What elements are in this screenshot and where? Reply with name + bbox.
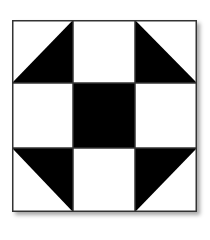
quilt-block-graphic xyxy=(12,20,197,212)
quilt-cell-r1-c0 xyxy=(12,83,73,148)
quilt-cell-r1-c1 xyxy=(73,83,135,148)
quilt-cell-r2-c2 xyxy=(135,148,197,212)
quilt-cell-r0-c1 xyxy=(73,20,135,83)
quilt-cell-r0-c2 xyxy=(135,20,197,83)
quilt-cell-r2-c1 xyxy=(73,148,135,212)
quilt-block xyxy=(12,20,197,212)
quilt-cell-r1-c2 xyxy=(135,83,197,148)
quilt-cell-r0-c0 xyxy=(12,20,73,83)
quilt-cell-r2-c0 xyxy=(12,148,73,212)
